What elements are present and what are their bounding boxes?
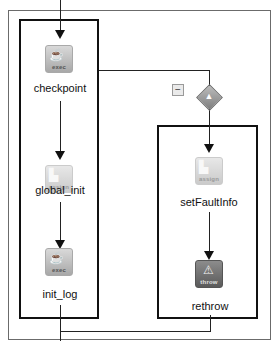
connector-gateway-out bbox=[209, 108, 210, 148]
connector-global-init-init-log bbox=[60, 202, 61, 242]
node-type-tag: exec bbox=[46, 267, 72, 274]
node-type-tag: assign bbox=[196, 176, 222, 183]
node-set-fault-info[interactable]: ▙ assign bbox=[195, 157, 223, 185]
assign-icon: ▙ bbox=[49, 168, 69, 182]
entry-arrow bbox=[55, 30, 65, 39]
warning-icon: ⚠ bbox=[203, 263, 223, 277]
catch-gateway-icon: ▲ bbox=[203, 90, 215, 102]
node-label-global-init: global_init bbox=[10, 184, 110, 196]
connector-set-fault-info-rethrow bbox=[209, 212, 210, 255]
node-type-tag: throw bbox=[196, 279, 222, 286]
node-label-checkpoint: checkpoint bbox=[10, 82, 110, 94]
node-label-init-log: init_log bbox=[10, 288, 110, 300]
node-init-log[interactable]: ☕ exec bbox=[45, 248, 73, 276]
connector-merge bbox=[60, 331, 211, 332]
coffee-cup-icon: ☕ bbox=[49, 48, 69, 62]
entry-connector bbox=[60, 0, 61, 32]
assign-icon: ▙ bbox=[199, 160, 219, 174]
connector-init-log-exit bbox=[60, 305, 61, 341]
node-checkpoint[interactable]: ☕ exec bbox=[45, 45, 73, 73]
coffee-cup-icon: ☕ bbox=[49, 251, 69, 265]
node-label-rethrow: rethrow bbox=[160, 300, 260, 312]
connector-to-gateway bbox=[99, 70, 210, 71]
connector-rethrow-exit bbox=[210, 315, 211, 331]
arrow-to-rethrow bbox=[204, 251, 214, 260]
arrow-to-set-fault-info bbox=[204, 144, 214, 153]
fault-handler-box bbox=[157, 125, 258, 319]
node-label-set-fault-info: setFaultInfo bbox=[159, 196, 259, 208]
connector-checkpoint-global-init bbox=[60, 101, 61, 153]
node-rethrow[interactable]: ⚠ throw bbox=[195, 260, 223, 288]
arrow-to-global-init bbox=[55, 151, 65, 160]
collapse-button[interactable]: − bbox=[172, 84, 184, 96]
node-type-tag: exec bbox=[46, 64, 72, 71]
